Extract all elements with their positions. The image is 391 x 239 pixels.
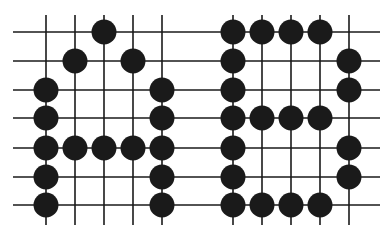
black-stone-b bbox=[250, 193, 275, 218]
black-stone-a bbox=[34, 193, 59, 218]
black-stone-b bbox=[221, 20, 246, 45]
black-stone-a bbox=[63, 136, 88, 161]
black-stone-b bbox=[221, 193, 246, 218]
black-stone-b bbox=[221, 136, 246, 161]
black-stone-a bbox=[63, 49, 88, 74]
black-stone-b bbox=[308, 106, 333, 131]
black-stone-a bbox=[150, 78, 175, 103]
black-stone-a bbox=[34, 78, 59, 103]
black-stone-a bbox=[121, 136, 146, 161]
black-stone-a bbox=[34, 165, 59, 190]
black-stone-b bbox=[337, 165, 362, 190]
black-stone-b bbox=[250, 106, 275, 131]
black-stone-b bbox=[221, 49, 246, 74]
black-stone-a bbox=[92, 20, 117, 45]
black-stone-b bbox=[308, 20, 333, 45]
black-stone-b bbox=[221, 165, 246, 190]
black-stone-a bbox=[92, 136, 117, 161]
black-stone-b bbox=[221, 78, 246, 103]
black-stone-a bbox=[34, 136, 59, 161]
black-stone-b bbox=[221, 106, 246, 131]
black-stone-b bbox=[250, 20, 275, 45]
black-stone-a bbox=[150, 165, 175, 190]
black-stone-a bbox=[121, 49, 146, 74]
black-stone-b bbox=[337, 49, 362, 74]
black-stone-a bbox=[150, 193, 175, 218]
black-stone-b bbox=[279, 106, 304, 131]
black-stone-b bbox=[337, 136, 362, 161]
black-stone-a bbox=[34, 106, 59, 131]
black-stone-a bbox=[150, 106, 175, 131]
black-stone-b bbox=[279, 20, 304, 45]
go-board-diagram bbox=[0, 0, 391, 239]
black-stone-b bbox=[279, 193, 304, 218]
black-stone-a bbox=[150, 136, 175, 161]
black-stone-b bbox=[337, 78, 362, 103]
black-stone-b bbox=[308, 193, 333, 218]
